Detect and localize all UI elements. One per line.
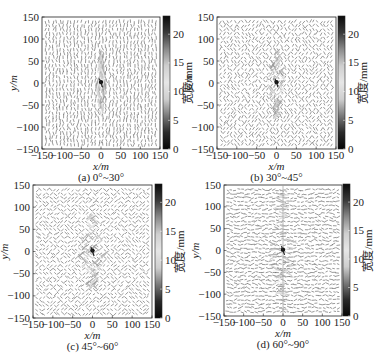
y-tick-label: −150 bbox=[16, 143, 39, 155]
x-tick-label: −100 bbox=[50, 149, 73, 161]
x-tick-label: 150 bbox=[144, 318, 161, 330]
colorbar bbox=[155, 184, 162, 318]
colorbar-tick-label: 0 bbox=[353, 310, 359, 322]
figure-caption bbox=[95, 350, 295, 360]
colorbar-label: 宽度/mm bbox=[356, 61, 369, 104]
colorbar-label: 宽度/mm bbox=[361, 229, 374, 272]
y-axis-label: y/m bbox=[7, 75, 19, 92]
y-tick-label: −100 bbox=[191, 121, 214, 133]
y-tick-label: −50 bbox=[13, 267, 31, 279]
colorbar-tick-label: 20 bbox=[165, 196, 177, 208]
subplot-caption: (a) 0°~30° bbox=[78, 171, 124, 184]
y-tick-label: 0 bbox=[25, 245, 31, 257]
colorbar-tick-label: 20 bbox=[353, 196, 365, 208]
y-tick-label: 50 bbox=[28, 55, 40, 67]
y-axis-label: y/m bbox=[0, 244, 10, 261]
x-tick-label: 150 bbox=[328, 149, 345, 161]
y-tick-label: −150 bbox=[7, 312, 30, 324]
x-tick-label: −100 bbox=[41, 318, 64, 330]
colorbar-tick-label: 5 bbox=[165, 283, 171, 295]
colorbar bbox=[343, 184, 350, 316]
colorbar-tick-label: 5 bbox=[173, 114, 179, 126]
figure-canvas: −150−100−50050100150−150−100−50050100150… bbox=[0, 0, 382, 362]
x-tick-label: −50 bbox=[248, 149, 266, 161]
y-axis-label: y/m bbox=[189, 243, 201, 260]
y-tick-label: 150 bbox=[14, 179, 31, 191]
y-tick-label: 150 bbox=[23, 11, 40, 23]
x-tick-label: 50 bbox=[297, 316, 309, 328]
colorbar-tick-label: 0 bbox=[348, 143, 354, 155]
subplot-caption: (b) 30°~45° bbox=[250, 171, 302, 184]
subplot-d: −150−100−50050100150−150−100−50050100150… bbox=[189, 179, 374, 352]
x-tick-label: 50 bbox=[115, 149, 127, 161]
y-tick-label: 50 bbox=[203, 55, 215, 67]
x-tick-label: 100 bbox=[314, 316, 331, 328]
stimulated-zone bbox=[266, 48, 285, 118]
y-tick-label: 0 bbox=[216, 244, 222, 256]
x-tick-label: −50 bbox=[73, 149, 91, 161]
colorbar-tick-label: 5 bbox=[353, 281, 359, 293]
y-tick-label: 100 bbox=[205, 200, 222, 212]
y-tick-label: −50 bbox=[204, 266, 222, 278]
subplot-b: −150−100−50050100150−150−100−50050100150… bbox=[182, 11, 369, 185]
x-tick-label: 50 bbox=[107, 318, 119, 330]
colorbar bbox=[338, 16, 345, 149]
x-tick-label: 100 bbox=[132, 149, 149, 161]
y-tick-label: 100 bbox=[198, 33, 215, 45]
colorbar bbox=[163, 16, 170, 149]
y-tick-label: −150 bbox=[198, 310, 221, 322]
y-axis-label: y/m bbox=[182, 75, 194, 92]
x-tick-label: 100 bbox=[124, 318, 141, 330]
x-tick-label: 100 bbox=[308, 149, 325, 161]
colorbar-tick-label: 20 bbox=[348, 28, 360, 40]
colorbar-tick-label: 0 bbox=[165, 312, 171, 324]
y-tick-label: 100 bbox=[23, 33, 40, 45]
x-tick-label: 150 bbox=[334, 316, 351, 328]
x-tick-label: −100 bbox=[225, 149, 248, 161]
x-tick-label: −100 bbox=[232, 316, 255, 328]
colorbar-label: 宽度/mm bbox=[173, 230, 186, 273]
y-tick-label: 50 bbox=[210, 222, 222, 234]
y-tick-label: −100 bbox=[16, 121, 39, 133]
y-tick-label: 100 bbox=[14, 201, 31, 213]
colorbar-tick-label: 5 bbox=[348, 114, 354, 126]
y-tick-label: −100 bbox=[7, 289, 30, 301]
y-tick-label: −50 bbox=[197, 99, 215, 111]
y-tick-label: −100 bbox=[198, 288, 221, 300]
colorbar-tick-label: 20 bbox=[173, 28, 185, 40]
x-tick-label: 50 bbox=[291, 149, 303, 161]
y-tick-label: 0 bbox=[34, 77, 40, 89]
x-tick-label: −50 bbox=[255, 316, 273, 328]
x-tick-label: −50 bbox=[64, 318, 82, 330]
y-tick-label: 0 bbox=[209, 77, 215, 89]
colorbar-tick-label: 0 bbox=[173, 143, 179, 155]
subplot-a: −150−100−50050100150−150−100−50050100150… bbox=[7, 11, 194, 185]
y-tick-label: 50 bbox=[19, 223, 31, 235]
y-tick-label: −50 bbox=[22, 99, 40, 111]
subplot-c: −150−100−50050100150−150−100−50050100150… bbox=[0, 179, 186, 354]
y-tick-label: 150 bbox=[205, 179, 222, 191]
y-tick-label: 150 bbox=[198, 11, 215, 23]
x-tick-label: 150 bbox=[152, 149, 169, 161]
y-tick-label: −150 bbox=[191, 143, 214, 155]
stimulated-zone bbox=[96, 50, 106, 116]
